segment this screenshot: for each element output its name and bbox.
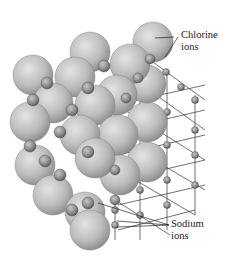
sodium-label: Sodium ions <box>171 218 204 242</box>
chlorine-label: Chlorine ions <box>181 29 218 53</box>
sodium-label-line1: Sodium <box>171 218 204 230</box>
chlorine-label-line1: Chlorine <box>181 29 218 41</box>
chlorine-label-line2: ions <box>181 41 218 53</box>
sodium-label-line2: ions <box>171 230 204 242</box>
